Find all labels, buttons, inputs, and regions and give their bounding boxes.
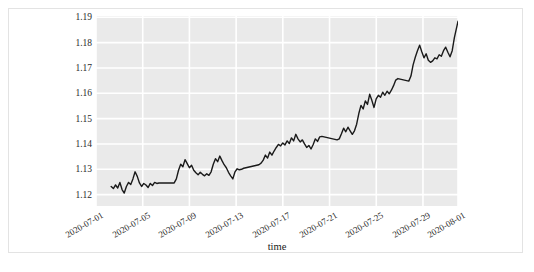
chart-figure: 1.191.181.171.161.151.141.131.12 2020-07… (0, 0, 534, 272)
series-line-rate (96, 16, 458, 206)
x-axis-title: time (96, 241, 458, 252)
y-axis-tick-label: 1.17 (58, 63, 92, 73)
y-axis-tick-label: 1.13 (58, 164, 92, 174)
y-axis-tick-label: 1.12 (58, 190, 92, 200)
y-axis-tick-labels: 1.191.181.171.161.151.141.131.12 (52, 16, 92, 206)
y-axis-tick-label: 1.14 (58, 139, 92, 149)
y-axis-tick-label: 1.19 (58, 12, 92, 22)
y-axis-tick-label: 1.16 (58, 88, 92, 98)
y-axis-tick-label: 1.18 (58, 38, 92, 48)
plot-area (96, 16, 458, 206)
y-axis-tick-label: 1.15 (58, 114, 92, 124)
